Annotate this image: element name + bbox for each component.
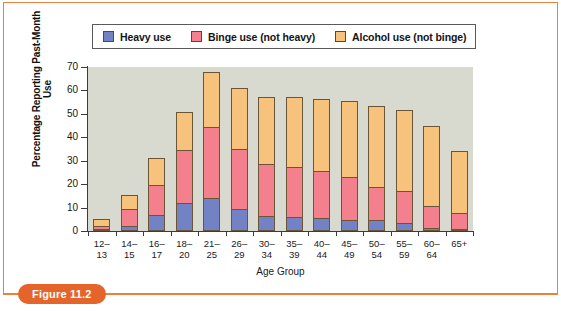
x-tick-mark: [88, 232, 89, 236]
bar-stack[interactable]: [451, 151, 468, 231]
bar-segment-alcohol-use-not-binge[interactable]: [286, 97, 303, 168]
bar-stack[interactable]: [121, 195, 138, 231]
x-tick-mark: [171, 232, 172, 236]
y-tick-label: 20: [58, 178, 78, 189]
bar-segment-alcohol-use-not-binge[interactable]: [258, 97, 275, 164]
x-tick-mark: [253, 232, 254, 236]
bar-segment-alcohol-use-not-binge[interactable]: [203, 72, 220, 127]
bar-segment-binge-use-not-heavy[interactable]: [286, 167, 303, 217]
y-tick-label: 50: [58, 108, 78, 119]
legend-swatch-heavy-use: [103, 31, 114, 42]
bar-stack[interactable]: [368, 106, 385, 231]
y-tick-label: 0: [58, 225, 78, 236]
y-tick-mark: [81, 208, 87, 209]
legend-item-heavy-use: Heavy use: [103, 31, 171, 43]
figure-container: Heavy use Binge use (not heavy) Alcohol …: [0, 0, 561, 311]
y-tick-label: 40: [58, 131, 78, 142]
bar-segment-binge-use-not-heavy[interactable]: [451, 213, 468, 228]
y-tick-mark: [81, 137, 87, 138]
bar-segment-binge-use-not-heavy[interactable]: [423, 206, 440, 229]
bar-segment-alcohol-use-not-binge[interactable]: [313, 99, 330, 171]
y-tick-mark: [81, 161, 87, 162]
legend-swatch-binge-use: [191, 31, 202, 42]
y-tick-label: 10: [58, 202, 78, 213]
bar-segment-alcohol-use-not-binge[interactable]: [93, 219, 110, 226]
bar-stack[interactable]: [313, 99, 330, 231]
x-tick-mark: [116, 232, 117, 236]
y-tick-mark: [81, 231, 87, 232]
bar-segment-heavy-use[interactable]: [148, 215, 165, 231]
bar-segment-heavy-use[interactable]: [423, 228, 440, 231]
bar-segment-heavy-use[interactable]: [286, 217, 303, 231]
bar-segment-binge-use-not-heavy[interactable]: [203, 127, 220, 198]
bar-segment-alcohol-use-not-binge[interactable]: [231, 88, 248, 149]
bar-segment-heavy-use[interactable]: [396, 223, 413, 231]
bar-segment-alcohol-use-not-binge[interactable]: [423, 126, 440, 206]
bar-series-layer: [88, 67, 473, 231]
bar-segment-alcohol-use-not-binge[interactable]: [368, 106, 385, 187]
bar-segment-binge-use-not-heavy[interactable]: [368, 187, 385, 220]
bar-segment-heavy-use[interactable]: [93, 229, 110, 231]
bar-segment-heavy-use[interactable]: [368, 220, 385, 231]
legend-swatch-alcohol-use: [335, 31, 346, 42]
bar-stack[interactable]: [286, 97, 303, 231]
bar-segment-binge-use-not-heavy[interactable]: [121, 209, 138, 226]
x-tick-mark: [143, 232, 144, 236]
bar-segment-binge-use-not-heavy[interactable]: [313, 171, 330, 218]
y-tick-mark: [81, 114, 87, 115]
bar-stack[interactable]: [231, 88, 248, 231]
bar-segment-heavy-use[interactable]: [176, 203, 193, 231]
bar-segment-binge-use-not-heavy[interactable]: [396, 191, 413, 223]
legend-item-binge-use: Binge use (not heavy): [191, 31, 315, 43]
bar-stack[interactable]: [148, 158, 165, 231]
bar-segment-binge-use-not-heavy[interactable]: [231, 149, 248, 210]
bar-segment-heavy-use[interactable]: [258, 216, 275, 231]
bar-segment-binge-use-not-heavy[interactable]: [258, 164, 275, 216]
y-tick-label: 30: [58, 155, 78, 166]
y-tick-label: 70: [58, 61, 78, 72]
bar-stack[interactable]: [176, 112, 193, 231]
x-axis-title: Age Group: [88, 266, 473, 277]
bar-segment-alcohol-use-not-binge[interactable]: [176, 112, 193, 150]
legend-label-heavy-use: Heavy use: [120, 31, 171, 43]
bar-segment-alcohol-use-not-binge[interactable]: [148, 158, 165, 185]
bar-segment-heavy-use[interactable]: [341, 220, 358, 231]
bar-segment-heavy-use[interactable]: [451, 229, 468, 231]
bar-segment-binge-use-not-heavy[interactable]: [148, 185, 165, 215]
legend-label-binge-use: Binge use (not heavy): [208, 31, 315, 43]
x-tick-label: 65+: [442, 238, 476, 249]
y-axis-title: Percentage Reporting Past-Month Use: [31, 9, 53, 169]
bar-segment-heavy-use[interactable]: [231, 209, 248, 231]
bar-stack[interactable]: [93, 219, 110, 231]
x-tick-mark: [281, 232, 282, 236]
bar-segment-binge-use-not-heavy[interactable]: [176, 150, 193, 203]
x-tick-mark: [198, 232, 199, 236]
y-tick-label: 60: [58, 84, 78, 95]
y-tick-mark: [81, 90, 87, 91]
bar-segment-alcohol-use-not-binge[interactable]: [121, 195, 138, 210]
bar-stack[interactable]: [341, 101, 358, 231]
legend-item-alcohol-use: Alcohol use (not binge): [335, 31, 466, 43]
bar-segment-alcohol-use-not-binge[interactable]: [451, 151, 468, 213]
x-tick-mark: [336, 232, 337, 236]
x-tick-mark: [363, 232, 364, 236]
x-tick-mark: [473, 232, 474, 236]
legend-label-alcohol-use: Alcohol use (not binge): [352, 31, 466, 43]
bar-segment-alcohol-use-not-binge[interactable]: [341, 101, 358, 177]
bar-segment-heavy-use[interactable]: [203, 198, 220, 231]
chart-legend: Heavy use Binge use (not heavy) Alcohol …: [92, 24, 476, 49]
figure-number-badge: Figure 11.2: [18, 284, 106, 304]
bar-segment-heavy-use[interactable]: [313, 218, 330, 231]
bar-segment-alcohol-use-not-binge[interactable]: [396, 110, 413, 191]
bar-stack[interactable]: [423, 126, 440, 231]
bar-stack[interactable]: [258, 97, 275, 231]
x-tick-mark: [308, 232, 309, 236]
bar-stack[interactable]: [203, 72, 220, 231]
bar-segment-binge-use-not-heavy[interactable]: [341, 177, 358, 220]
x-tick-mark: [418, 232, 419, 236]
x-tick-mark: [226, 232, 227, 236]
bar-segment-heavy-use[interactable]: [121, 226, 138, 231]
bar-stack[interactable]: [396, 110, 413, 231]
y-tick-mark: [81, 184, 87, 185]
x-tick-mark: [391, 232, 392, 236]
